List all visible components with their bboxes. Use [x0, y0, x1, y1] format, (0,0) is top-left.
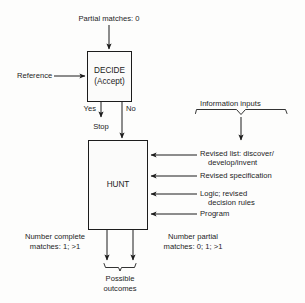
output-partial-matches-line1: Number partial [138, 232, 248, 241]
input-label-logic-line2: decision rules [208, 198, 255, 207]
stop-terminal-label: Stop [84, 122, 118, 131]
input-label-revised-list-line1: Revised list: discover/ [200, 149, 274, 158]
flowchart-canvas: Partial matches: 0 Reference DECIDE (Acc… [0, 0, 305, 303]
output-complete-matches-line1: Number complete [8, 232, 102, 241]
reference-input-label: Reference [17, 71, 52, 80]
output-complete-matches-line2: matches: 1; >1 [8, 242, 102, 251]
input-label-revised-list-line2: develop/invent [208, 158, 257, 167]
possible-outcomes-brace [104, 264, 136, 272]
output-partial-matches-line2: matches: 0; 1; >1 [138, 242, 248, 251]
decide-no-label: No [126, 104, 136, 113]
decide-box-line2: (Accept) [87, 77, 132, 87]
possible-outcomes-line1: Possible [88, 274, 152, 283]
input-label-logic-line1: Logic; revised [200, 189, 247, 198]
input-label-program: Program [200, 209, 229, 218]
hunt-box-label: HUNT [88, 180, 148, 190]
information-inputs-header: Information inputs [200, 99, 261, 108]
input-label-revised-specification: Revised specification [200, 171, 272, 180]
decide-box-line1: DECIDE [87, 66, 132, 76]
information-inputs-brace [196, 110, 288, 115]
partial-matches-input-label: Partial matches: 0 [54, 14, 164, 23]
possible-outcomes-line2: outcomes [88, 284, 152, 293]
decide-yes-label: Yes [70, 104, 96, 113]
